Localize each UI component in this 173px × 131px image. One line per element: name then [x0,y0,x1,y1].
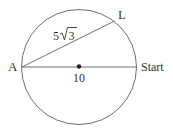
label-A: A [8,59,18,74]
label-L: L [118,7,126,22]
label-chord-length: 5 3 [53,28,77,44]
label-diameter: 10 [73,71,85,85]
label-start: Start [141,60,164,74]
circle-diagram: A L Start 10 5 3 [0,0,173,131]
chord-coef: 5 [53,29,59,43]
chord-radicand: 3 [69,29,75,43]
center-point [77,64,81,68]
